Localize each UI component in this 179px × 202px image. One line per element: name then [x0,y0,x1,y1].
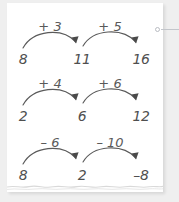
row-2-operation-1: + 4 [38,76,61,91]
row-3-operation-2: – 10 [96,135,123,150]
row-1-node-2: 11 [73,51,90,67]
row-1-operation-2: + 5 [98,19,121,34]
row-1-arrow-1 [23,32,79,48]
row-2-node-3: 12 [132,108,149,124]
row-2-arrow-1 [23,89,79,105]
connector-dot-icon[interactable] [155,27,160,32]
diagram-row-3: – 6 – 10 8 2 –8 [7,125,163,183]
row-2-node-1: 2 [19,108,28,124]
diagram-row-2: + 4 + 6 2 6 12 [7,66,163,124]
row-2-operation-2: + 6 [98,76,121,91]
row-3-operation-1: – 6 [41,135,60,150]
diagram-canvas: + 3 + 5 8 11 16 [7,3,163,192]
row-1-node-1: 8 [19,51,28,67]
row-1-arrow-2 [83,32,139,46]
row-3-node-1: 8 [19,167,28,183]
paper-surface: + 3 + 5 8 11 16 [7,3,163,192]
row-3-arrow-2 [83,148,139,162]
worksheet-screenshot: + 3 + 5 8 11 16 [0,0,179,202]
row-1-operation-1: + 3 [38,19,61,34]
row-3-arrow-1 [23,148,79,164]
row-3-node-2: 2 [78,167,87,183]
row-2-arrow-2 [83,89,139,103]
row-2-node-2: 6 [78,108,87,124]
connector-leader-line [161,29,179,30]
row-1-node-3: 16 [132,51,149,67]
connector-handle[interactable] [152,23,179,39]
diagram-row-1: + 3 + 5 8 11 16 [7,9,163,67]
row-3-node-3: –8 [133,167,148,183]
paper-sheet: + 3 + 5 8 11 16 [7,3,163,192]
diagram-rows: + 3 + 5 8 11 16 [7,3,163,192]
